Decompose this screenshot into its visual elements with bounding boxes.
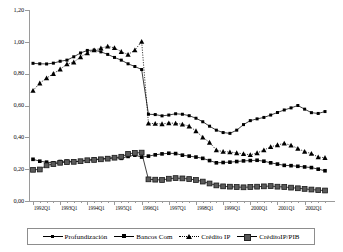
data-point-marker bbox=[51, 71, 56, 76]
data-point-marker bbox=[44, 76, 49, 81]
data-point-marker bbox=[133, 65, 136, 68]
data-point-marker bbox=[215, 161, 219, 165]
data-point-marker bbox=[296, 104, 299, 107]
data-point-marker bbox=[180, 122, 185, 127]
data-point-marker bbox=[254, 150, 259, 155]
data-point-marker bbox=[119, 154, 124, 159]
data-point-marker bbox=[65, 59, 68, 62]
data-point-marker bbox=[112, 155, 117, 160]
data-point-marker bbox=[92, 158, 97, 163]
data-point-marker bbox=[222, 131, 225, 134]
data-point-marker bbox=[187, 154, 191, 158]
legend-marker bbox=[51, 235, 54, 238]
series-4 bbox=[31, 150, 328, 193]
legend-item-3[interactable]: Crédito IP bbox=[179, 233, 230, 241]
data-point-marker bbox=[310, 111, 313, 114]
data-point-marker bbox=[268, 144, 273, 149]
data-point-marker bbox=[32, 62, 35, 65]
legend-marker bbox=[122, 234, 126, 238]
data-point-marker bbox=[235, 129, 238, 132]
data-point-marker bbox=[275, 184, 280, 189]
data-point-marker bbox=[302, 149, 307, 154]
data-point-marker bbox=[38, 62, 41, 65]
data-point-marker bbox=[193, 128, 198, 133]
data-point-marker bbox=[153, 177, 158, 182]
data-point-marker bbox=[58, 67, 63, 72]
data-point-marker bbox=[295, 146, 300, 151]
legend-label: Bancos Com bbox=[136, 233, 172, 241]
data-point-marker bbox=[249, 159, 253, 163]
data-point-marker bbox=[256, 117, 259, 120]
data-point-marker bbox=[37, 81, 42, 86]
data-point-marker bbox=[181, 113, 184, 116]
data-point-marker bbox=[276, 111, 279, 114]
data-point-marker bbox=[255, 158, 259, 162]
data-point-marker bbox=[181, 153, 185, 157]
legend-item-1[interactable]: Profundización bbox=[43, 233, 108, 241]
series-1 bbox=[32, 49, 327, 135]
data-point-marker bbox=[208, 159, 212, 163]
data-point-marker bbox=[221, 184, 226, 189]
data-point-marker bbox=[201, 157, 205, 161]
square-small-icon bbox=[43, 233, 63, 241]
data-point-marker bbox=[295, 186, 300, 191]
square-icon bbox=[114, 233, 134, 241]
data-point-marker bbox=[194, 117, 197, 120]
data-point-marker bbox=[106, 53, 109, 56]
data-point-marker bbox=[235, 160, 239, 164]
data-point-marker bbox=[126, 151, 131, 156]
data-point-marker bbox=[147, 154, 151, 158]
data-point-marker bbox=[241, 151, 246, 156]
data-point-marker bbox=[248, 185, 253, 190]
data-point-marker bbox=[323, 169, 327, 173]
data-point-marker bbox=[174, 152, 178, 156]
data-point-marker bbox=[194, 178, 199, 183]
data-point-marker bbox=[221, 161, 225, 165]
data-point-marker bbox=[261, 184, 266, 189]
data-point-marker bbox=[38, 159, 42, 163]
legend-label: Crédito IP bbox=[201, 233, 230, 241]
data-point-marker bbox=[207, 140, 212, 145]
data-point-marker bbox=[290, 106, 293, 109]
data-point-marker bbox=[323, 188, 328, 193]
data-point-marker bbox=[99, 50, 102, 53]
series-line bbox=[33, 153, 325, 191]
data-point-marker bbox=[282, 141, 287, 146]
data-point-marker bbox=[85, 158, 90, 163]
data-point-marker bbox=[119, 49, 124, 54]
legend-item-2[interactable]: Bancos Com bbox=[114, 233, 172, 241]
data-point-marker bbox=[161, 114, 164, 117]
data-point-marker bbox=[78, 54, 83, 59]
data-point-marker bbox=[52, 62, 55, 65]
data-point-marker bbox=[173, 121, 178, 126]
data-point-marker bbox=[113, 56, 116, 59]
data-point-marker bbox=[303, 108, 306, 111]
data-point-marker bbox=[154, 113, 157, 116]
data-point-marker bbox=[296, 165, 300, 169]
data-point-marker bbox=[282, 185, 287, 190]
legend-marker bbox=[186, 234, 192, 239]
data-point-marker bbox=[78, 159, 83, 164]
data-point-marker bbox=[167, 151, 171, 155]
data-point-marker bbox=[105, 44, 110, 49]
data-point-marker bbox=[31, 157, 35, 161]
data-point-marker bbox=[262, 159, 266, 163]
data-point-marker bbox=[59, 60, 62, 63]
data-point-marker bbox=[45, 62, 48, 65]
data-point-marker bbox=[187, 177, 192, 182]
data-point-marker bbox=[37, 167, 42, 172]
legend-item-4[interactable]: CréditoIP/PIB bbox=[237, 233, 299, 241]
data-point-marker bbox=[255, 184, 260, 189]
data-point-marker bbox=[72, 55, 75, 58]
data-point-marker bbox=[242, 159, 246, 163]
data-point-marker bbox=[309, 151, 314, 156]
data-point-marker bbox=[228, 132, 231, 135]
data-point-marker bbox=[127, 62, 130, 65]
data-point-marker bbox=[228, 184, 233, 189]
data-point-marker bbox=[105, 156, 110, 161]
legend-label: CréditoIP/PIB bbox=[259, 233, 299, 241]
data-point-marker bbox=[79, 51, 82, 54]
data-point-marker bbox=[174, 112, 177, 115]
data-point-marker bbox=[180, 176, 185, 181]
data-point-marker bbox=[51, 162, 56, 167]
